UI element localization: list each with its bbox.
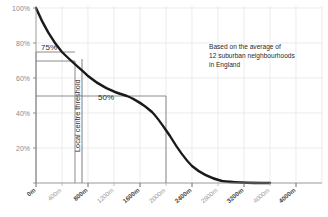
source-note-line-2: 12 suburban neighbourhoods (209, 52, 295, 60)
y-tick-20: 20% (16, 145, 30, 152)
source-note-line-3: in England (209, 61, 240, 69)
annotation-local-centre-threshold: Local centre threshold (73, 79, 82, 152)
y-tick-100: 100% (12, 5, 30, 12)
annotation-50-percent: 50% (98, 93, 114, 102)
chart-svg: 100% 80% 60% 40% 20% 0m 400m 800m 1200m (0, 0, 328, 217)
y-tick-40: 40% (16, 110, 30, 117)
accessibility-decay-chart: 100% 80% 60% 40% 20% 0m 400m 800m 1200m (0, 0, 328, 217)
y-tick-80: 80% (16, 40, 30, 47)
source-note-line-1: Based on the average of (209, 43, 281, 51)
y-tick-60: 60% (16, 75, 30, 82)
annotation-75-percent: 75% (41, 43, 57, 52)
